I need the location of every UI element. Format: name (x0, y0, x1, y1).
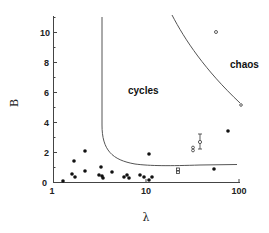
y-axis-title: B (8, 99, 21, 107)
y-tick-0: 0 (42, 178, 47, 188)
region-label-cycles: cycles (128, 85, 159, 96)
x-tick-10: 10 (141, 186, 151, 196)
y-tick-10: 10 (40, 28, 50, 38)
y-tick-6: 6 (44, 88, 49, 98)
x-ticks (146, 179, 239, 183)
filled-points (61, 129, 230, 183)
y-tick-4: 4 (44, 118, 49, 128)
x-axis-title: λ (143, 211, 150, 224)
cycles-boundary-curve (102, 17, 237, 166)
open-points (177, 31, 243, 174)
region-label-chaos: chaos (230, 59, 259, 70)
x-tick-1: 1 (49, 186, 54, 196)
y-tick-2: 2 (44, 148, 49, 158)
y-tick-8: 8 (44, 58, 49, 68)
x-tick-100: 100 (231, 186, 246, 196)
chart: 0 2 4 6 8 10 1 10 100 B λ cycles chaos (0, 0, 269, 233)
